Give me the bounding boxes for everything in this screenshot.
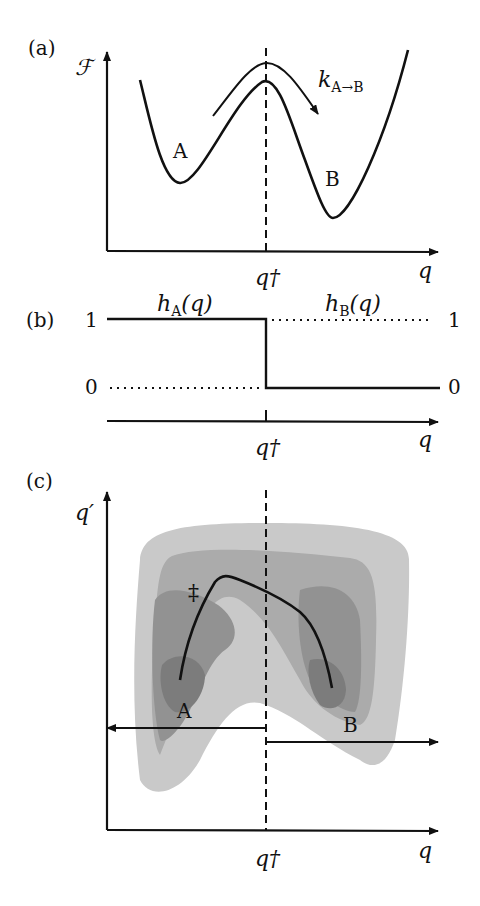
hB-label: hB(q) — [325, 291, 381, 319]
x-axis — [107, 251, 438, 252]
q-axis-label-b: q — [418, 427, 432, 452]
state-a-label-c: A — [176, 699, 192, 723]
right-zero-label: 0 — [448, 375, 461, 399]
barrier-q-label-b: q† — [255, 435, 281, 460]
q-prime-axis-label: q′ — [75, 500, 94, 525]
panel-b-label: (b) — [26, 308, 54, 332]
figure: (a) ℱ q kA→B A B q† (b) hA(q) hB(q) 1 0 … — [0, 0, 480, 906]
left-one-label: 1 — [85, 308, 98, 332]
right-one-label: 1 — [448, 308, 461, 332]
panel-b: (b) hA(q) hB(q) 1 0 1 0 q q† — [26, 291, 461, 460]
free-energy-curve — [140, 50, 408, 218]
barrier-q-label: q† — [255, 265, 281, 290]
q-axis-label-c: q — [418, 838, 432, 863]
x-axis-b — [107, 421, 438, 422]
panel-c: (c) q′ q q† ‡ A B — [26, 469, 438, 871]
left-zero-label: 0 — [85, 375, 98, 399]
panel-a: (a) ℱ q kA→B A B q† — [28, 36, 438, 290]
state-a-label: A — [172, 139, 188, 163]
state-b-label-c: B — [343, 713, 358, 737]
rate-k-label: kA→B — [318, 67, 363, 95]
hA-label: hA(q) — [157, 291, 213, 319]
panel-a-label: (a) — [28, 36, 56, 60]
x-axis-c — [107, 830, 438, 831]
hA-step-line — [107, 319, 440, 388]
state-b-label: B — [325, 167, 340, 191]
barrier-q-label-c: q† — [255, 846, 281, 871]
free-energy-axis-label: ℱ — [75, 55, 96, 80]
panel-c-label: (c) — [26, 469, 53, 493]
q-axis-label: q — [418, 258, 432, 283]
transition-state-marker: ‡ — [188, 580, 199, 605]
